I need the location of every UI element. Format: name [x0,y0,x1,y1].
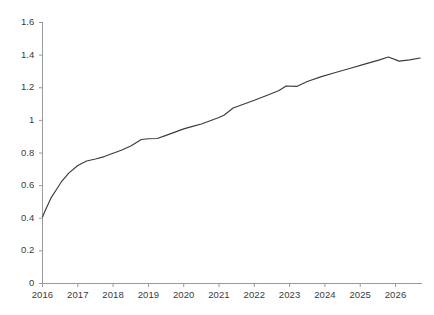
y-tick-label: 0.4 [0,212,35,223]
y-axis-ticks [39,23,43,284]
x-tick-label: 2017 [58,289,98,300]
x-tick-label: 2024 [305,289,345,300]
x-tick-label: 2025 [340,289,380,300]
y-tick-label: 0.2 [0,244,35,255]
y-tick-label: 0.6 [0,179,35,190]
x-tick-label: 2020 [164,289,204,300]
y-tick-label: 1 [0,114,35,125]
x-tick-label: 2018 [93,289,133,300]
y-tick-label: 1.2 [0,81,35,92]
y-tick-label: 0 [0,277,35,288]
y-tick-label: 0.8 [0,147,35,158]
x-tick-label: 2016 [23,289,63,300]
x-tick-label: 2022 [234,289,274,300]
x-tick-label: 2019 [128,289,168,300]
axes-group [39,22,422,287]
y-tick-label: 1.4 [0,49,35,60]
data-line-series-1 [43,57,421,217]
x-axis-ticks [43,284,396,288]
x-tick-label: 2021 [199,289,239,300]
chart-canvas [0,0,434,315]
line-chart: 00.20.40.60.811.21.41.6 2016201720182019… [0,0,434,315]
y-tick-label: 1.6 [0,16,35,27]
x-tick-label: 2026 [376,289,416,300]
x-tick-label: 2023 [270,289,310,300]
